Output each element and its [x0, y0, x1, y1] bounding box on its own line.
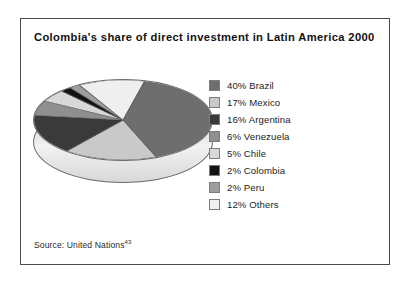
legend-label-mexico: 17% Mexico — [227, 97, 280, 108]
legend-swatch-mexico — [209, 97, 220, 108]
legend-label-peru: 2% Peru — [227, 182, 265, 193]
pie-slices — [34, 80, 212, 160]
legend-item-peru: 2% Peru — [209, 179, 379, 196]
source-footnote-marker: 43 — [125, 239, 132, 245]
legend-swatch-brazil — [209, 80, 220, 91]
page-title: Colombia's share of direct investment in… — [34, 31, 375, 43]
legend-swatch-others — [209, 199, 220, 210]
legend-item-mexico: 17% Mexico — [209, 94, 379, 111]
legend-label-argentina: 16% Argentina — [227, 114, 291, 125]
pie-top-face — [33, 79, 213, 161]
legend-item-colombia: 2% Colombia — [209, 162, 379, 179]
legend-label-chile: 5% Chile — [227, 148, 266, 159]
legend-swatch-venezuela — [209, 131, 220, 142]
legend-swatch-colombia — [209, 165, 220, 176]
legend-label-venezuela: 6% Venezuela — [227, 131, 290, 142]
chart-legend: 40% Brazil17% Mexico16% Argentina6% Vene… — [209, 77, 379, 213]
legend-label-others: 12% Others — [227, 199, 279, 210]
pie-chart-3d-body — [33, 79, 213, 197]
legend-item-others: 12% Others — [209, 196, 379, 213]
legend-label-colombia: 2% Colombia — [227, 165, 285, 176]
source-text: Source: United Nations — [34, 240, 125, 250]
legend-item-venezuela: 6% Venezuela — [209, 128, 379, 145]
legend-swatch-chile — [209, 148, 220, 159]
figure-frame: Colombia's share of direct investment in… — [20, 18, 390, 265]
legend-item-chile: 5% Chile — [209, 145, 379, 162]
legend-label-brazil: 40% Brazil — [227, 80, 274, 91]
source-note: Source: United Nations43 — [34, 239, 131, 250]
legend-swatch-argentina — [209, 114, 220, 125]
pie-chart — [29, 71, 219, 211]
legend-swatch-peru — [209, 182, 220, 193]
legend-item-brazil: 40% Brazil — [209, 77, 379, 94]
legend-item-argentina: 16% Argentina — [209, 111, 379, 128]
